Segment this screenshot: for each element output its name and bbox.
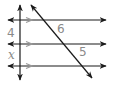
- label-vertical-top: 4: [7, 27, 15, 39]
- label-vertical-bottom: x: [8, 49, 15, 61]
- label-diagonal-bottom: 5: [79, 46, 87, 58]
- diagram-canvas: [0, 0, 113, 89]
- diagonal-transversal: [31, 5, 92, 78]
- label-diagonal-top: 6: [57, 23, 65, 35]
